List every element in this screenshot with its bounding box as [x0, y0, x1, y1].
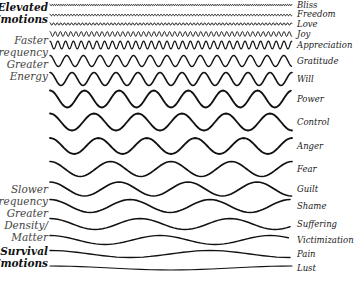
category-label-line: Density/ — [4, 220, 48, 231]
emotion-label-power: Power — [297, 95, 324, 104]
wave-fear — [50, 162, 292, 177]
emotion-label-shame: Shame — [297, 202, 326, 211]
wave-lust — [50, 266, 292, 270]
emotion-label-joy: Joy — [297, 30, 310, 39]
wave-victimization — [50, 236, 288, 245]
category-label-line: Emotions — [0, 14, 48, 25]
wave-pain — [50, 251, 290, 258]
wave-anger — [50, 138, 292, 154]
emotion-label-guilt: Guilt — [297, 185, 318, 194]
category-label-line: Slower — [11, 184, 48, 195]
category-label-line: Survival — [0, 246, 48, 257]
emotion-label-will: Will — [297, 75, 314, 84]
wave-freedom — [50, 14, 292, 16]
emotion-label-love: Love — [297, 20, 318, 29]
category-label-line: Energy — [10, 71, 48, 82]
emotion-label-victimization: Victimization — [297, 236, 354, 245]
wave-shame — [50, 200, 290, 213]
wave-joy — [50, 32, 292, 37]
category-label-line: Emotions — [0, 258, 48, 269]
wave-appreciation — [50, 41, 292, 49]
emotion-label-fear: Fear — [297, 165, 317, 174]
wave-gratitude — [50, 56, 291, 67]
emotion-label-anger: Anger — [297, 142, 323, 151]
category-label-line: Faster — [14, 35, 48, 46]
emotion-label-lust: Lust — [297, 264, 316, 273]
emotion-label-gratitude: Gratitude — [297, 57, 338, 66]
wave-suffering — [50, 219, 290, 230]
category-label-line: Frequency — [0, 196, 48, 207]
category-label-line: Greater — [7, 59, 48, 70]
category-label-line: Elevated — [0, 2, 48, 13]
wave-guilt — [50, 182, 292, 196]
emotion-label-control: Control — [297, 118, 329, 127]
emotion-label-pain: Pain — [297, 250, 316, 259]
category-label-line: Matter — [11, 232, 48, 243]
wave-control — [50, 114, 292, 131]
category-label-line: Greater — [7, 208, 48, 219]
emotion-label-appreciation: Appreciation — [297, 41, 352, 50]
wave-bliss — [50, 4, 292, 5]
emotion-label-suffering: Suffering — [297, 220, 337, 229]
emotion-label-freedom: Freedom — [297, 10, 336, 19]
wave-power — [50, 91, 291, 108]
wave-love — [50, 23, 292, 25]
wave-will — [50, 73, 292, 86]
category-label-line: Frequency — [0, 47, 48, 58]
